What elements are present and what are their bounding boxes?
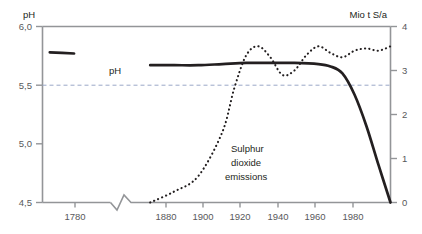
left-tick-label-0: 6,0: [19, 21, 32, 32]
left-axis-title: pH: [23, 9, 35, 20]
right-axis-title: Mio t S/a: [350, 9, 388, 20]
sulphur-annotation-line-1: Sulphur: [231, 143, 264, 154]
right-tick-label-3: 1: [402, 153, 407, 164]
right-tick-label-2: 2: [402, 109, 407, 120]
x-tick-label-1980: 1980: [342, 211, 363, 222]
right-tick-label-0: 4: [402, 21, 407, 32]
x-tick-label-1780: 1780: [64, 211, 85, 222]
x-tick-label-1900: 1900: [192, 211, 213, 222]
sulphur-annotation-line-2: dioxide: [231, 157, 261, 168]
x-tick-label-1920: 1920: [229, 211, 250, 222]
left-tick-label-1: 5,5: [19, 80, 32, 91]
x-tick-label-1880: 1880: [155, 211, 176, 222]
ph-sulphur-dioxide-chart: pH Mio t S/a 6,0 5,5 5,0 4,5 4 3 2 1 0 1…: [0, 0, 422, 234]
left-tick-label-3: 4,5: [19, 197, 32, 208]
right-tick-label-4: 0: [402, 197, 407, 208]
sulphur-annotation-line-3: emissions: [225, 171, 267, 182]
left-tick-label-2: 5,0: [19, 138, 32, 149]
ph-series-label: pH: [109, 65, 121, 76]
x-tick-label-1940: 1940: [267, 211, 288, 222]
chart-background: [0, 0, 422, 234]
x-tick-label-1960: 1960: [304, 211, 325, 222]
ph-curve-segment-left: [50, 52, 74, 53]
chart-svg: pH Mio t S/a 6,0 5,5 5,0 4,5 4 3 2 1 0 1…: [0, 0, 422, 234]
right-tick-label-1: 3: [402, 65, 407, 76]
